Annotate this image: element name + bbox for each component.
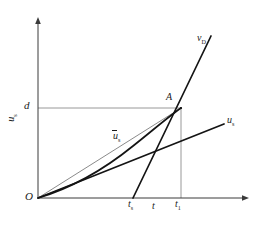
v-d-tangent-line xyxy=(133,36,211,198)
curve-label-v-d: vD xyxy=(197,33,206,45)
diagram-svg xyxy=(0,0,259,231)
u-mean-secant-line xyxy=(38,108,181,198)
x-tick-label-ts-sub: s xyxy=(131,204,133,211)
curve-label-u-s-sub: s xyxy=(232,120,234,127)
x-tick-label-t1-sub: 1 xyxy=(178,204,181,211)
x-tick-label-t1: t1 xyxy=(175,199,181,211)
y-axis-label-sub: s xyxy=(11,114,18,116)
curve-label-u-s: us xyxy=(227,115,234,127)
x-axis-arrowhead xyxy=(242,195,249,201)
y-axis-label: us xyxy=(6,114,18,121)
figure-caption xyxy=(0,221,259,231)
curve-label-u-s-mean-sub: s xyxy=(118,136,120,143)
origin-label: O xyxy=(25,191,33,202)
point-a-marker xyxy=(180,107,182,109)
y-axis-label-base: u xyxy=(5,117,16,122)
curve-label-u-s-mean: us xyxy=(113,131,120,143)
point-a-label: A xyxy=(166,92,172,102)
guide-lines xyxy=(38,108,181,198)
axis-value-label-d: d xyxy=(24,100,30,111)
curve-label-u-s-mean-base: u xyxy=(113,131,118,141)
figure-canvas: d O A vD us us ts t1 t us xyxy=(0,0,259,231)
y-axis-arrowhead xyxy=(35,17,41,24)
data-curves xyxy=(38,36,224,198)
curve-label-v-d-sub: D xyxy=(201,38,205,45)
axes xyxy=(35,17,249,201)
x-tick-label-ts: ts xyxy=(128,199,133,211)
x-axis-label: t xyxy=(152,201,155,211)
